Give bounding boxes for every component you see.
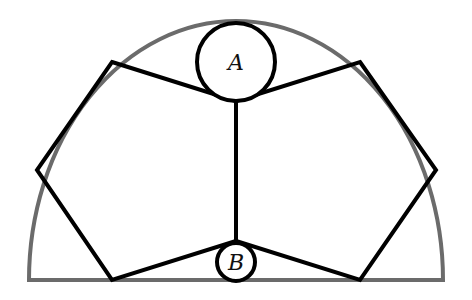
right-pentagon bbox=[236, 62, 436, 280]
circle-a-label: A bbox=[226, 50, 244, 75]
geometry-figure: A B bbox=[0, 0, 472, 300]
left-pentagon bbox=[37, 62, 236, 280]
circle-b-label: B bbox=[227, 250, 244, 275]
diagram-canvas: A B bbox=[0, 0, 472, 300]
